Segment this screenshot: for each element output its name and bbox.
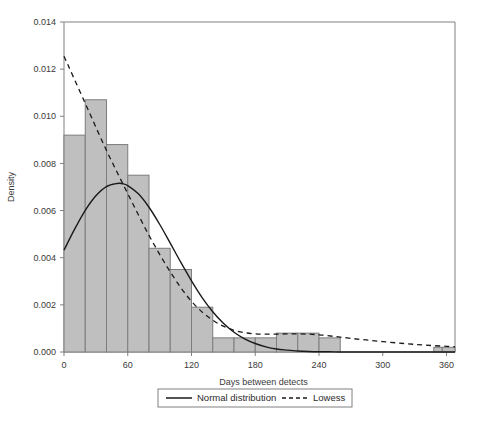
histogram-bar: [298, 333, 319, 352]
density-histogram-figure: 0.0000.0020.0040.0060.0080.0100.0120.014…: [0, 0, 478, 426]
x-tick-label: 360: [439, 360, 454, 370]
histogram-bar: [149, 248, 170, 352]
x-tick-label: 60: [123, 360, 133, 370]
x-axis-ticks: 060120180240300360: [61, 352, 454, 370]
histogram-bars: [64, 100, 455, 352]
histogram-bar: [107, 145, 128, 352]
y-tick-label: 0.008: [33, 159, 56, 169]
legend-label-lowess: Lowess: [313, 392, 345, 403]
histogram-bar: [319, 338, 340, 352]
y-tick-label: 0.014: [33, 17, 56, 27]
chart-canvas: 0.0000.0020.0040.0060.0080.0100.0120.014…: [0, 0, 478, 426]
x-tick-label: 180: [248, 360, 263, 370]
x-tick-label: 240: [311, 360, 326, 370]
histogram-bar: [170, 270, 191, 353]
y-tick-label: 0.000: [33, 347, 56, 357]
y-axis-ticks: 0.0000.0020.0040.0060.0080.0100.0120.014: [33, 17, 64, 357]
y-tick-label: 0.002: [33, 300, 56, 310]
histogram-bar: [434, 347, 443, 352]
histogram-bar: [192, 307, 213, 352]
histogram-bar: [234, 338, 255, 352]
y-axis-title: Density: [6, 171, 16, 202]
histogram-bar: [213, 338, 234, 352]
x-axis-title: Days between detects: [219, 377, 308, 387]
histogram-bar: [442, 347, 455, 352]
y-tick-label: 0.012: [33, 64, 56, 74]
x-tick-label: 120: [184, 360, 199, 370]
x-tick-label: 0: [61, 360, 66, 370]
chart-legend: Normal distribution Lowess: [158, 389, 352, 407]
x-tick-label: 300: [375, 360, 390, 370]
legend-label-normal-distribution: Normal distribution: [197, 392, 276, 403]
y-tick-label: 0.006: [33, 206, 56, 216]
y-tick-label: 0.010: [33, 111, 56, 121]
y-tick-label: 0.004: [33, 253, 56, 263]
histogram-bar: [85, 100, 106, 352]
